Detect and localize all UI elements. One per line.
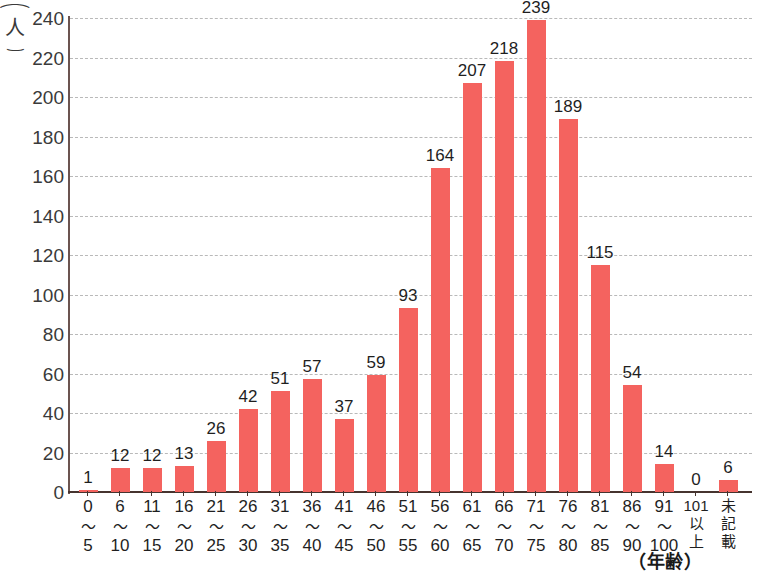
x-tick-mark <box>407 491 408 496</box>
bar[interactable] <box>399 308 418 492</box>
y-tick-label-80: 80 <box>24 325 64 344</box>
bar-slot: 115 <box>584 18 616 492</box>
x-category-label: 未記載 <box>712 497 744 551</box>
x-tick-mark <box>279 491 280 496</box>
x-category-lower-bound: 41 <box>328 497 360 517</box>
bar-slot: 26 <box>200 18 232 492</box>
x-category-lower-bound: 51 <box>392 497 424 517</box>
x-category-label: 71〜75 <box>520 497 552 556</box>
x-category-range-dash: 〜 <box>200 517 232 536</box>
x-category-upper-bound: 35 <box>264 536 296 556</box>
x-category-label: 31〜35 <box>264 497 296 556</box>
bar-slot: 12 <box>136 18 168 492</box>
x-tick-mark <box>567 491 568 496</box>
x-category-range-dash: 〜 <box>168 517 200 536</box>
bar[interactable] <box>527 20 546 492</box>
y-tick-label-180: 180 <box>24 127 64 146</box>
bar[interactable] <box>335 419 354 492</box>
x-tick-mark <box>599 491 600 496</box>
x-tick-mark <box>311 491 312 496</box>
bar-value-label: 239 <box>513 0 559 16</box>
x-category-range-dash: 〜 <box>264 517 296 536</box>
x-category-range-dash: 〜 <box>616 517 648 536</box>
x-category-range-dash: 〜 <box>328 517 360 536</box>
x-category-upper-bound: 85 <box>584 536 616 556</box>
x-category-label: 86〜90 <box>616 497 648 556</box>
x-category-range-dash: 〜 <box>232 517 264 536</box>
x-category-label: 51〜55 <box>392 497 424 556</box>
bar[interactable] <box>367 375 386 492</box>
x-category-lower-bound: 0 <box>72 497 104 517</box>
x-tick-mark <box>535 491 536 496</box>
x-category-lower-bound: 16 <box>168 497 200 517</box>
bar[interactable] <box>111 468 130 492</box>
x-tick-mark <box>119 491 120 496</box>
bar-value-label: 6 <box>705 459 751 476</box>
y-tick-label-40: 40 <box>24 404 64 423</box>
bar[interactable] <box>623 385 642 492</box>
bar-slot: 6 <box>712 18 744 492</box>
x-axis-title: （年齢） <box>628 552 702 572</box>
bar-slot: 42 <box>232 18 264 492</box>
x-category-lower-bound: 26 <box>232 497 264 517</box>
bar-slot: 1 <box>72 18 104 492</box>
x-category-char: 101 <box>680 497 712 515</box>
x-category-label: 21〜25 <box>200 497 232 556</box>
y-tick-label-160: 160 <box>24 167 64 186</box>
x-category-lower-bound: 46 <box>360 497 392 517</box>
x-category-label: 26〜30 <box>232 497 264 556</box>
bar[interactable] <box>303 379 322 492</box>
bar[interactable] <box>271 391 290 492</box>
x-category-upper-bound: 75 <box>520 536 552 556</box>
bar-slot: 164 <box>424 18 456 492</box>
x-category-label: 76〜80 <box>552 497 584 556</box>
x-category-label: 16〜20 <box>168 497 200 556</box>
x-tick-mark <box>471 491 472 496</box>
x-category-upper-bound: 20 <box>168 536 200 556</box>
bar[interactable] <box>431 168 450 492</box>
x-tick-mark <box>215 491 216 496</box>
x-category-lower-bound: 6 <box>104 497 136 517</box>
bar[interactable] <box>207 441 226 492</box>
x-category-range-dash: 〜 <box>488 517 520 536</box>
x-category-lower-bound: 36 <box>296 497 328 517</box>
x-tick-mark <box>727 491 728 496</box>
x-category-upper-bound: 55 <box>392 536 424 556</box>
bar[interactable] <box>79 490 98 492</box>
bar[interactable] <box>175 466 194 492</box>
x-category-upper-bound: 70 <box>488 536 520 556</box>
bar-slot: 218 <box>488 18 520 492</box>
x-tick-mark <box>183 491 184 496</box>
bar-slot: 54 <box>616 18 648 492</box>
x-category-label: 56〜60 <box>424 497 456 556</box>
bar[interactable] <box>495 61 514 492</box>
x-tick-mark <box>663 491 664 496</box>
x-category-range-dash: 〜 <box>520 517 552 536</box>
y-tick-label-200: 200 <box>24 88 64 107</box>
bar[interactable] <box>143 468 162 492</box>
x-category-upper-bound: 45 <box>328 536 360 556</box>
bar[interactable] <box>463 83 482 492</box>
x-tick-mark <box>87 491 88 496</box>
x-category-upper-bound: 30 <box>232 536 264 556</box>
x-category-lower-bound: 21 <box>200 497 232 517</box>
x-category-upper-bound: 65 <box>456 536 488 556</box>
bar[interactable] <box>655 464 674 492</box>
x-category-upper-bound: 5 <box>72 536 104 556</box>
bar-slot: 14 <box>648 18 680 492</box>
x-category-lower-bound: 71 <box>520 497 552 517</box>
bar[interactable] <box>239 409 258 492</box>
bar[interactable] <box>719 480 738 492</box>
bar[interactable] <box>591 265 610 492</box>
bar-slot: 0 <box>680 18 712 492</box>
x-category-range-dash: 〜 <box>72 517 104 536</box>
x-tick-mark <box>503 491 504 496</box>
bar-slot: 51 <box>264 18 296 492</box>
x-category-lower-bound: 61 <box>456 497 488 517</box>
y-axis-ticks: 020406080100120140160180200220240 <box>18 18 64 492</box>
x-category-label: 46〜50 <box>360 497 392 556</box>
bar-slot: 37 <box>328 18 360 492</box>
bar[interactable] <box>559 119 578 492</box>
y-tick-label-20: 20 <box>24 443 64 462</box>
x-tick-mark <box>439 491 440 496</box>
